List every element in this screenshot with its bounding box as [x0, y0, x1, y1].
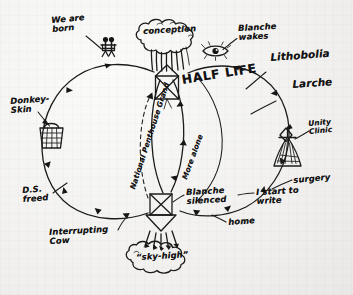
interrupting-cow-leader [118, 218, 126, 230]
home-leader [212, 215, 226, 222]
blanche-wakes-label: Blanche wakes [238, 22, 277, 41]
national-penthouse-grand-arrowhead [146, 92, 154, 100]
donkey-skin-label: Donkey- Skin [10, 94, 50, 114]
two-figures-icon [101, 37, 116, 57]
left-loop-arrowheads [42, 64, 130, 220]
larche-label: Larche [292, 76, 333, 89]
interrupting-cow-label: Interrupting Cow [49, 225, 109, 245]
blanche-silenced-leader [173, 195, 184, 202]
we-are-born-label: We are born [51, 13, 86, 33]
left-outer-loop [42, 65, 154, 219]
box-x-funnel-icon [146, 194, 176, 231]
home-label: home [228, 216, 255, 226]
larche-leader [251, 101, 276, 114]
blanche-wakes-leader [223, 39, 237, 50]
i-start-to-write-leader [238, 193, 254, 195]
unity-clinic-leader [295, 131, 309, 139]
ds-freed-label: D.S. freed [22, 184, 49, 203]
i-start-to-write-label: I start to write [256, 186, 299, 205]
blanche-silenced-label: Blanche silenced [186, 186, 227, 205]
eye-icon [202, 42, 231, 61]
unity-clinic-label: Unity Clinic [308, 118, 333, 135]
we-are-born-leader [86, 36, 102, 49]
